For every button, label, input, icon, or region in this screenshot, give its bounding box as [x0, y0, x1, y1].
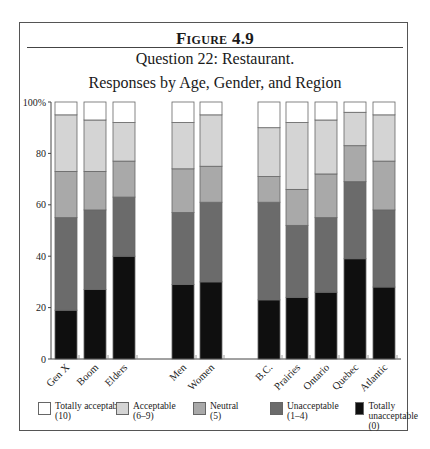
bar-segment	[55, 102, 77, 115]
legend-item: Unacceptable(1–4)	[270, 401, 339, 421]
bar-segment	[286, 225, 308, 297]
bar-segment	[172, 213, 194, 285]
bar-segment	[55, 218, 77, 311]
x-category-label: B.C.	[253, 362, 274, 383]
bar-segment	[373, 102, 395, 115]
y-tick-label: 80	[36, 148, 46, 159]
legend-swatch	[116, 402, 129, 415]
x-category-label: Elders	[103, 362, 130, 389]
y-tick-label: 40	[36, 251, 46, 262]
bar-segment	[344, 146, 366, 182]
bar-segment	[258, 102, 280, 128]
bar-segment	[84, 171, 106, 210]
y-tick-label: 0	[41, 354, 46, 365]
bar-segment	[315, 292, 337, 359]
bar-prairies	[286, 102, 308, 359]
bar-segment	[258, 300, 280, 359]
bar-segment	[113, 256, 135, 359]
legend-item: Totally acceptable(10)	[38, 401, 124, 421]
bar-segment	[200, 166, 222, 202]
bar-segment	[286, 297, 308, 359]
bar-boom	[84, 102, 106, 359]
stacked-bar-chart: 020406080100%Gen XBoomEldersMenWomenB.C.…	[0, 0, 430, 449]
bar-segment	[84, 290, 106, 359]
bar-segment	[258, 128, 280, 177]
x-category-label: Ontario	[301, 362, 331, 392]
bar-segment	[172, 169, 194, 213]
bar-segment	[172, 284, 194, 359]
legend-label: Totally unacceptable(0)	[368, 401, 421, 431]
bar-segment	[84, 120, 106, 171]
bar-segment	[172, 102, 194, 123]
bar-segment	[258, 202, 280, 300]
x-category-label: Prairies	[272, 362, 302, 392]
bar-segment	[286, 123, 308, 190]
bar-segment	[172, 123, 194, 169]
bar-segment	[84, 102, 106, 120]
bar-gen-x	[55, 102, 77, 359]
legend-item: Acceptable(6–9)	[116, 401, 176, 421]
bar-segment	[113, 102, 135, 123]
legend-swatch	[193, 402, 206, 415]
legend-item: Totally unacceptable(0)	[355, 401, 422, 431]
bar-segment	[315, 174, 337, 218]
bar-segment	[200, 102, 222, 115]
bar-segment	[113, 197, 135, 256]
bar-segment	[55, 310, 77, 359]
bar-segment	[315, 102, 337, 120]
bar-segment	[55, 115, 77, 172]
x-category-label: Women	[186, 361, 217, 392]
bar-segment	[344, 102, 366, 112]
legend-label: Neutral(5)	[210, 401, 239, 421]
bar-segment	[373, 287, 395, 359]
legend-label: Acceptable(6–9)	[133, 401, 176, 421]
bar-segment	[200, 115, 222, 166]
bar-segment	[315, 120, 337, 174]
bar-segment	[344, 112, 366, 145]
bar-segment	[373, 115, 395, 161]
x-category-label: Boom	[74, 362, 100, 388]
legend-swatch	[38, 402, 51, 415]
bar-b-c	[258, 102, 280, 359]
x-category-label: Men	[167, 361, 189, 383]
legend-item: Neutral(5)	[193, 401, 239, 421]
legend-label: Unacceptable(1–4)	[287, 401, 339, 421]
bar-segment	[286, 189, 308, 225]
bar-elders	[113, 102, 135, 359]
x-category-label: Gen X	[44, 361, 72, 389]
bar-men	[172, 102, 194, 359]
legend-swatch	[270, 402, 283, 415]
bar-segment	[258, 177, 280, 203]
bar-segment	[286, 102, 308, 123]
bar-segment	[373, 161, 395, 210]
bar-segment	[315, 218, 337, 293]
legend-swatch	[355, 402, 364, 415]
bar-segment	[113, 161, 135, 197]
bar-segment	[84, 210, 106, 290]
bar-segment	[373, 210, 395, 287]
y-tick-label: 100%	[23, 97, 46, 108]
bar-quebec	[344, 102, 366, 359]
y-tick-label: 60	[36, 199, 46, 210]
bar-segment	[344, 259, 366, 359]
bar-women	[200, 102, 222, 359]
legend-label: Totally acceptable(10)	[55, 401, 124, 421]
bar-atlantic	[373, 102, 395, 359]
bar-segment	[113, 123, 135, 162]
bar-segment	[200, 202, 222, 282]
x-category-label: Atlantic	[358, 361, 390, 393]
chart-legend: Totally acceptable(10)Acceptable(6–9)Neu…	[38, 401, 408, 427]
bar-segment	[55, 171, 77, 217]
bar-segment	[200, 282, 222, 359]
x-category-label: Quebec	[330, 361, 361, 392]
bar-ontario	[315, 102, 337, 359]
y-tick-label: 20	[36, 302, 46, 313]
bar-segment	[344, 182, 366, 259]
